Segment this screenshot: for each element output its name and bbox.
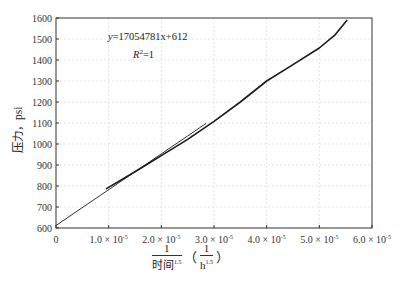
y-tick-label: 700 <box>37 202 52 213</box>
y-tick-label: 1600 <box>32 13 52 24</box>
y-tick-label: 1200 <box>32 97 52 108</box>
y-tick-label: 800 <box>37 181 52 192</box>
x-tick-label: 6.0 × 10-5 <box>353 234 391 245</box>
x-label-fraction: 1 时间1.5 <box>152 242 182 272</box>
y-tick-label: 1300 <box>32 76 52 87</box>
x-tick-label: 4.0 × 10-5 <box>248 234 286 245</box>
fit-line <box>56 123 206 225</box>
y-axis-ticks: 6007008009001000110012001300140015001600 <box>32 13 59 234</box>
y-tick-label: 1500 <box>32 34 52 45</box>
y-tick-label: 1100 <box>32 118 52 129</box>
fit-equation: y=17054781x+612 <box>107 31 188 42</box>
gridlines <box>56 18 372 228</box>
r-squared: R2=1 <box>132 48 154 60</box>
chart: 6007008009001000110012001300140015001600… <box>0 0 400 283</box>
y-tick-label: 1400 <box>32 55 52 66</box>
y-tick-label: 1000 <box>32 139 52 150</box>
y-tick-label: 900 <box>37 160 52 171</box>
x-label-unit: 1 h1.5 <box>200 242 213 272</box>
x-tick-label: 0 <box>54 234 59 245</box>
x-axis-label: 1 时间1.5 （ 1 h1.5 ） <box>152 242 229 272</box>
x-tick-label: 5.0 × 10-5 <box>300 234 338 245</box>
y-axis-label: 压力，psi <box>9 107 25 153</box>
pressure-curve <box>106 20 347 189</box>
y-tick-label: 600 <box>37 223 52 234</box>
x-tick-label: 1.0 × 10-5 <box>90 234 128 245</box>
